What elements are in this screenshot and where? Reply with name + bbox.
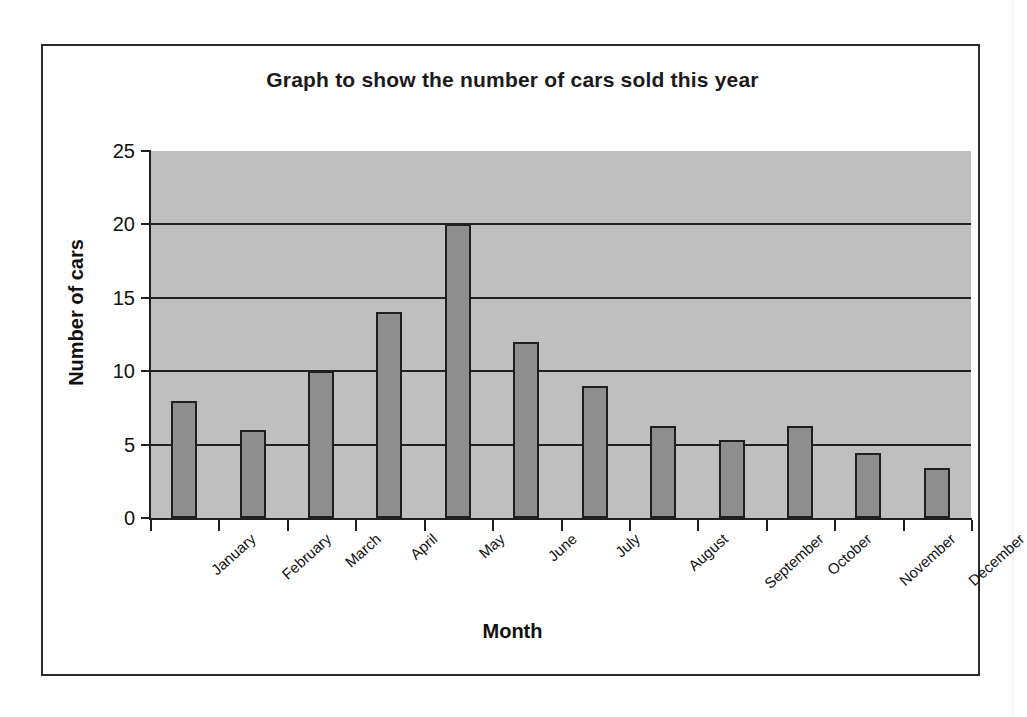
x-tick-mark	[697, 520, 699, 531]
x-tick-mark	[424, 520, 426, 531]
x-tick-mark	[971, 520, 973, 531]
y-tick-label: 15	[91, 288, 135, 308]
x-tick-mark	[766, 520, 768, 531]
bar	[308, 371, 334, 518]
plot-area	[150, 151, 971, 518]
bar	[582, 386, 608, 518]
bar	[513, 342, 539, 518]
chart-frame: Graph to show the number of cars sold th…	[41, 44, 980, 676]
x-tick-label: September	[760, 530, 826, 592]
gridline	[150, 444, 971, 446]
x-tick-label: January	[208, 530, 259, 578]
x-tick-label: May	[475, 530, 507, 562]
x-tick-mark	[561, 520, 563, 531]
gridline	[150, 150, 971, 152]
bar	[650, 426, 676, 518]
x-tick-mark	[834, 520, 836, 531]
bar	[171, 401, 197, 518]
x-tick-label: December	[965, 530, 1027, 589]
bar	[445, 224, 471, 518]
bar	[855, 453, 881, 518]
bar	[924, 468, 950, 518]
y-tick-mark	[141, 150, 150, 152]
x-tick-label: April	[407, 530, 441, 563]
x-tick-mark	[150, 520, 152, 531]
x-tick-mark	[903, 520, 905, 531]
y-axis-line	[149, 150, 151, 520]
bar	[787, 426, 813, 518]
y-tick-label: 0	[91, 508, 135, 528]
chart-title: Graph to show the number of cars sold th…	[43, 68, 982, 92]
bar	[376, 312, 402, 518]
x-tick-mark	[287, 520, 289, 531]
gridline	[150, 223, 971, 225]
y-tick-mark	[141, 517, 150, 519]
y-tick-mark	[141, 370, 150, 372]
x-tick-label: November	[896, 530, 959, 589]
y-tick-mark	[141, 444, 150, 446]
x-tick-label: June	[545, 530, 581, 564]
x-tick-label: February	[278, 530, 334, 583]
scan-page-edge	[1008, 0, 1014, 717]
y-tick-label: 25	[91, 141, 135, 161]
y-axis-title: Number of cars	[65, 218, 88, 408]
y-tick-mark	[141, 223, 150, 225]
y-tick-label: 5	[91, 435, 135, 455]
x-axis-title: Month	[43, 620, 982, 643]
y-tick-label: 20	[91, 214, 135, 234]
gridline	[150, 370, 971, 372]
bar	[240, 430, 266, 518]
y-tick-label: 10	[91, 361, 135, 381]
x-tick-label: October	[824, 530, 875, 578]
x-tick-mark	[355, 520, 357, 531]
x-tick-mark	[218, 520, 220, 531]
gridline	[150, 297, 971, 299]
x-tick-label: March	[342, 530, 384, 571]
y-tick-mark	[141, 297, 150, 299]
x-tick-label: July	[612, 530, 643, 560]
x-tick-mark	[492, 520, 494, 531]
bar	[719, 440, 745, 518]
x-tick-label: August	[685, 530, 731, 574]
